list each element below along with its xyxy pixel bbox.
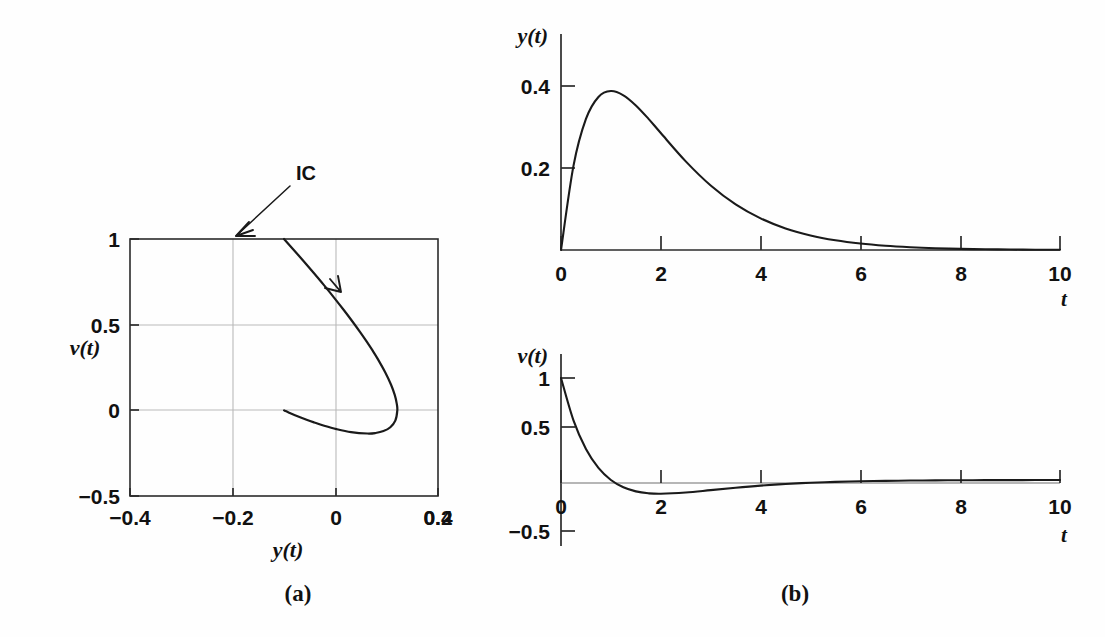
panel-a-svg: IC 1 0.5 0 −0.5 −0.4 −0.2 0 0.2 v(t) y(t… <box>0 0 470 600</box>
panel-a-xtick-neg0p2: −0.2 <box>212 506 253 529</box>
caption-a: (a) <box>285 581 312 606</box>
panel-a-y-tickmarks <box>130 239 139 496</box>
phase-trajectory-curve-smooth <box>284 239 397 434</box>
panel-a-ytick-1: 1 <box>108 228 120 251</box>
panel-b-top-y-tickmarks <box>561 86 575 168</box>
panel-b-bottom-xtick-0: 0 <box>555 495 567 518</box>
panel-b-bottom-xtick-8: 8 <box>955 495 967 518</box>
panel-a-x-tickmarks <box>130 488 438 496</box>
panel-b-top-xtick-4: 4 <box>755 262 767 285</box>
panel-a-xlabel: y(t) <box>270 537 304 562</box>
panel-b-bottom-xtick-6: 6 <box>855 495 867 518</box>
panel-b-bottom-ytick-0p5: 0.5 <box>521 416 551 439</box>
caption-b: (b) <box>781 581 809 606</box>
panel-a-phase-portrait: IC 1 0.5 0 −0.5 −0.4 −0.2 0 0.2 v(t) y(t… <box>0 0 470 600</box>
panel-b-bottom-xtick-2: 2 <box>655 495 667 518</box>
panel-b-bottom-ylabel: v(t) <box>517 343 548 368</box>
panel-a-plot-frame <box>130 239 438 496</box>
ic-pointer-arrow-icon <box>236 186 290 236</box>
panel-a-ytick-0p5: 0.5 <box>91 314 121 337</box>
panel-b-bottom-svg: 1 0.5 −0.5 0 2 4 6 8 10 v(t) t <box>470 318 1105 618</box>
panel-a-xtick-neg0p4: −0.4 <box>109 506 151 529</box>
panel-a-xtick-0: 0 <box>330 506 342 529</box>
panel-b-bottom-v-vs-t: 1 0.5 −0.5 0 2 4 6 8 10 v(t) t <box>470 318 1105 618</box>
panel-b-top-xtick-2: 2 <box>655 262 667 285</box>
panel-a-ytick-neg0p5: −0.5 <box>79 485 121 508</box>
figure-root: IC 1 0.5 0 −0.5 −0.4 −0.2 0 0.2 v(t) y(t… <box>0 0 1105 637</box>
v-of-t-curve <box>561 378 1060 494</box>
panel-b-bottom-xlabel: t <box>1061 523 1068 547</box>
panel-a-ytick-0: 0 <box>108 399 120 422</box>
panel-b-bottom-xtick-4: 4 <box>755 495 767 518</box>
panel-b-bottom-ytick-neg0p5: −0.5 <box>509 520 551 543</box>
panel-b-top-xtick-0: 0 <box>555 262 567 285</box>
panel-b-top-ytick-0p4: 0.4 <box>521 75 551 98</box>
panel-a-xtick-0p2: 0.2 <box>423 506 452 529</box>
panel-b-top-xtick-6: 6 <box>855 262 867 285</box>
panel-b-bottom-ytick-1: 1 <box>538 367 550 390</box>
panel-b-top-xtick-10: 10 <box>1048 262 1071 285</box>
panel-b-top-ylabel: y(t) <box>514 23 548 48</box>
panel-a-gridlines <box>130 239 438 496</box>
panel-b-bottom-xtick-10: 10 <box>1048 495 1071 518</box>
panel-b-top-y-vs-t: 0.4 0.2 0 2 4 6 8 10 y(t) t <box>470 0 1105 310</box>
y-of-t-curve-main <box>561 91 1060 250</box>
panel-b-top-xtick-8: 8 <box>955 262 967 285</box>
panel-a-ylabel: v(t) <box>70 335 101 360</box>
ic-annotation-label: IC <box>296 162 316 184</box>
panel-b-top-x-tickmarks <box>561 236 1060 250</box>
subfigure-captions: (a) (b) <box>0 575 1105 637</box>
panel-b-top-ytick-0p2: 0.2 <box>521 157 550 180</box>
panel-b-top-xlabel: t <box>1061 287 1068 310</box>
panel-b-top-svg: 0.4 0.2 0 2 4 6 8 10 y(t) t <box>470 0 1105 310</box>
